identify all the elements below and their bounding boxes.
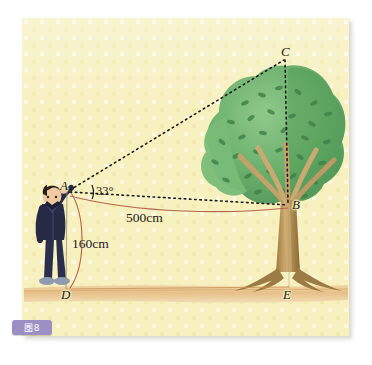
angle-label: 33° [96,185,114,198]
figure-number-badge: 圏8 [12,320,52,335]
point-label-E: E [283,288,291,301]
point-label-C: C [281,45,290,58]
geometry-illustration [0,0,372,365]
measurement-label-height: 160cm [72,237,109,251]
tree-illustration [201,65,345,292]
angle-arc-A [92,185,94,199]
measurement-label-distance: 500cm [126,211,163,225]
point-label-B: B [292,198,300,211]
point-label-D: D [61,288,70,301]
point-label-A: A [60,179,68,192]
segment-AD [66,190,67,289]
figure-canvas: A B C D E 160cm 500cm 33° 圏8 [0,0,372,365]
